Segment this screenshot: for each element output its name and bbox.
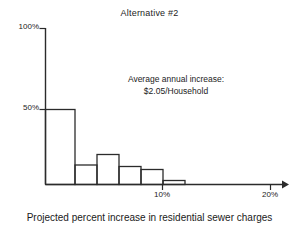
bar-1 xyxy=(46,110,76,185)
x-axis-label-20: 20% xyxy=(256,190,284,199)
bar-6 xyxy=(163,181,185,185)
x-axis-caption: Projected percent increase in residentia… xyxy=(0,212,299,223)
y-axis-label-100: 100% xyxy=(10,22,39,31)
bar-5 xyxy=(141,170,163,185)
bar-2 xyxy=(75,165,97,185)
chart-annotation: Average annual increase: $2.05/Household xyxy=(108,74,244,97)
y-axis-label-50: 50% xyxy=(10,103,39,112)
x-axis-arrow-icon xyxy=(282,181,289,189)
x-axis-label-10: 10% xyxy=(148,190,176,199)
annotation-line-2: $2.05/Household xyxy=(108,86,244,98)
bar-3 xyxy=(97,155,119,185)
chart-screenshot: Alternative #2 100% 50% 10% 20% Averag xyxy=(0,0,299,231)
annotation-line-1: Average annual increase: xyxy=(108,74,244,86)
histogram-bars xyxy=(46,110,186,185)
bar-4 xyxy=(119,167,141,185)
